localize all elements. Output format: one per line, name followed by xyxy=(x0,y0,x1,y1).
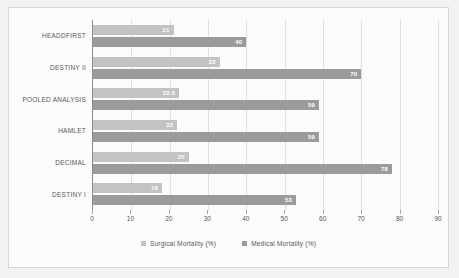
bar-surgical[interactable]: 21 xyxy=(93,25,174,35)
axis-tick-label: 50 xyxy=(281,215,288,222)
gridline xyxy=(438,20,439,210)
bar-surgical[interactable]: 33 xyxy=(93,57,220,67)
axis-tick xyxy=(92,210,93,214)
legend-label: Medical Mortality (%) xyxy=(251,240,316,247)
bar-value-label: 78 xyxy=(381,166,392,172)
bar-medical[interactable]: 70 xyxy=(93,69,361,79)
axis-tick-label: 60 xyxy=(319,215,326,222)
axis-tick-label: 30 xyxy=(204,215,211,222)
axis-tick-label: 40 xyxy=(242,215,249,222)
axis-tick xyxy=(361,210,362,214)
bar-value-label: 22.5 xyxy=(163,90,179,96)
axis-tick xyxy=(130,210,131,214)
bar-value-label: 33 xyxy=(208,59,219,65)
plot-area-wrapper: HEADDFIRSTDESTINY IIPOOLED ANALYSISHAMLE… xyxy=(9,8,448,267)
bar-group: 22.559 xyxy=(93,83,438,115)
bar-value-label: 25 xyxy=(178,154,189,160)
bar-group: 2140 xyxy=(93,20,438,52)
legend-label: Surgical Mortality (%) xyxy=(150,240,216,247)
legend-item[interactable]: Surgical Mortality (%) xyxy=(141,240,216,247)
bar-medical[interactable]: 78 xyxy=(93,164,392,174)
bar-value-label: 59 xyxy=(308,102,319,108)
bar-medical[interactable]: 59 xyxy=(93,100,319,110)
plot-area: 2140337022.559225925781853 xyxy=(92,20,438,210)
category-label: HEADDFIRST xyxy=(9,20,92,52)
bar-rows: 2140337022.559225925781853 xyxy=(93,20,438,210)
bar-group: 2259 xyxy=(93,115,438,147)
axis-tick-label: 90 xyxy=(434,215,441,222)
bar-value-label: 21 xyxy=(162,27,173,33)
bar-value-label: 70 xyxy=(350,71,361,77)
bar-surgical[interactable]: 18 xyxy=(93,183,162,193)
axis-tick-label: 80 xyxy=(396,215,403,222)
bar-value-label: 59 xyxy=(308,134,319,140)
bar-value-label: 53 xyxy=(285,197,296,203)
category-label: DESTINY II xyxy=(9,52,92,84)
bar-group: 1853 xyxy=(93,178,438,210)
axis-tick-label: 20 xyxy=(165,215,172,222)
axis-tick xyxy=(284,210,285,214)
axis-tick xyxy=(207,210,208,214)
bar-surgical[interactable]: 22.5 xyxy=(93,88,179,98)
axis-tick-label: 70 xyxy=(357,215,364,222)
category-label: POOLED ANALYSIS xyxy=(9,83,92,115)
axis-tick-label: 0 xyxy=(90,215,94,222)
axis-tick xyxy=(438,210,439,214)
bar-value-label: 22 xyxy=(166,122,177,128)
category-label: DESTINY I xyxy=(9,178,92,210)
category-label: DECIMAL xyxy=(9,147,92,179)
legend-item[interactable]: Medical Mortality (%) xyxy=(242,240,316,247)
bar-value-label: 18 xyxy=(151,185,162,191)
bar-surgical[interactable]: 22 xyxy=(93,120,177,130)
bar-medical[interactable]: 59 xyxy=(93,132,319,142)
legend-swatch-icon xyxy=(141,241,146,246)
bar-group: 2578 xyxy=(93,147,438,179)
axis-tick xyxy=(323,210,324,214)
bar-value-label: 40 xyxy=(235,39,246,45)
value-axis: 0102030405060708090 xyxy=(92,210,438,226)
category-axis-labels: HEADDFIRSTDESTINY IIPOOLED ANALYSISHAMLE… xyxy=(9,20,92,210)
bar-group: 3370 xyxy=(93,52,438,84)
chart-legend: Surgical Mortality (%)Medical Mortality … xyxy=(9,240,448,247)
chart-container: HEADDFIRSTDESTINY IIPOOLED ANALYSISHAMLE… xyxy=(8,7,449,268)
axis-tick xyxy=(169,210,170,214)
bar-medical[interactable]: 40 xyxy=(93,37,246,47)
category-label: HAMLET xyxy=(9,115,92,147)
axis-tick-label: 10 xyxy=(127,215,134,222)
bar-medical[interactable]: 53 xyxy=(93,195,296,205)
axis-tick xyxy=(246,210,247,214)
legend-swatch-icon xyxy=(242,241,247,246)
axis-tick xyxy=(400,210,401,214)
bar-surgical[interactable]: 25 xyxy=(93,152,189,162)
